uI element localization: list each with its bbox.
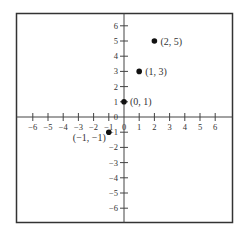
origin-y-label: 0 [114, 112, 118, 122]
x-tick-label: 5 [198, 122, 202, 132]
x-tick-label: 6 [213, 122, 217, 132]
y-tick-label: 6 [114, 21, 118, 31]
x-tick-label: 0 [122, 122, 126, 132]
data-point [152, 38, 158, 44]
x-tick-label: −5 [43, 122, 52, 132]
y-tick-label: 3 [114, 66, 118, 76]
x-tick-label: −6 [28, 122, 37, 132]
x-tick-label: 4 [183, 122, 188, 132]
x-tick-label: −2 [89, 122, 98, 132]
y-tick-label: −3 [109, 158, 118, 168]
y-tick-label: 2 [114, 82, 118, 92]
data-point [106, 129, 112, 135]
x-tick-label: 2 [152, 122, 156, 132]
x-tick-label: −4 [59, 122, 69, 132]
point-label: (−1, −1) [73, 132, 106, 144]
y-tick-label: 1 [114, 97, 118, 107]
y-tick-label: −2 [109, 142, 118, 152]
y-tick-label: −4 [109, 173, 119, 183]
y-tick-label: 5 [114, 36, 118, 46]
point-label: (2, 5) [160, 36, 182, 48]
y-tick-label: −5 [109, 188, 118, 198]
data-point [136, 69, 142, 75]
x-tick-label: 3 [167, 122, 171, 132]
coordinate-plane-chart: −6−5−4−3−2−10123456 −6−5−4−3−2−11234560 … [0, 0, 244, 232]
data-point [121, 99, 127, 105]
y-tick-label: −6 [109, 203, 118, 213]
point-label: (0, 1) [130, 96, 152, 108]
point-label: (1, 3) [145, 66, 167, 78]
x-tick-label: −3 [74, 122, 83, 132]
x-tick-label: 1 [137, 122, 141, 132]
